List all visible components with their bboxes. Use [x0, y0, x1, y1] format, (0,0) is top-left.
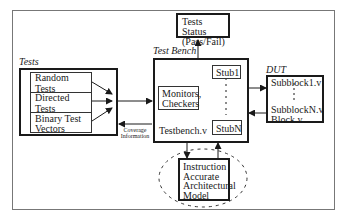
dut-label: DUT: [266, 64, 286, 75]
test-bench-label: Test Bench: [153, 45, 196, 56]
coverage-label: Coverage Information: [118, 127, 152, 139]
architectural-model-box: Instruction Accurate Architectural Model: [178, 158, 230, 201]
test-item-random: Random Tests: [31, 73, 91, 93]
tests-status-box: Tests Status (Pass/Fail): [176, 13, 230, 38]
block-file-label: Block.v: [271, 114, 302, 125]
stub-n-box: StubN: [212, 120, 242, 135]
test-item-directed: Directed Tests: [31, 93, 91, 113]
testbench-file-label: Testbench.v: [159, 125, 207, 136]
test-item-binary: Binary Test Vectors: [31, 113, 91, 134]
stub-1-box: Stub1: [212, 65, 241, 79]
tests-group-label: Tests: [19, 56, 39, 67]
subblock-1-label: Subblock1.v: [271, 77, 321, 88]
tests-list: Random Tests Directed Tests Binary Test …: [30, 72, 92, 133]
monitors-checkers-box: Monitors, Checkers: [158, 86, 199, 110]
